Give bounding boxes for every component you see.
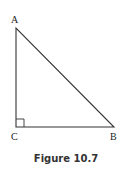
figure-caption: Figure 10.7 <box>34 153 98 164</box>
vertex-label-b: B <box>110 131 117 142</box>
right-triangle-diagram: A C B Figure 10.7 <box>0 0 135 172</box>
triangle-abc <box>16 28 114 127</box>
vertex-label-c: C <box>11 131 18 142</box>
right-angle-marker <box>16 119 24 127</box>
vertex-label-a: A <box>11 14 19 25</box>
